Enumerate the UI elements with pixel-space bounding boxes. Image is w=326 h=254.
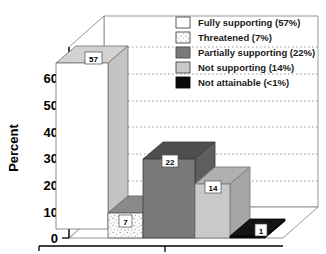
bar-value-label: 57 (89, 55, 98, 64)
legend-label-threatened: Threatened (7%) (198, 32, 272, 43)
chart-canvas: 60 50 40 30 20 10 0 Percent 57 (0, 0, 326, 254)
legend-swatch-not-attainable (176, 77, 190, 88)
bar-value-label: 1 (259, 227, 264, 236)
bar-front-face (56, 63, 108, 229)
legend-swatch-threatened (176, 32, 190, 43)
bar-fully-supporting[interactable]: 57 (56, 46, 128, 229)
legend-swatch-partially-supporting (176, 47, 190, 58)
y-tick-label-0: 0 (51, 231, 58, 246)
legend-label-fully-supporting: Fully supporting (57%) (198, 17, 300, 28)
legend-swatch-not-supporting (176, 62, 190, 73)
legend-label-not-supporting: Not supporting (14%) (198, 62, 294, 73)
legend-swatch-fully-supporting (176, 17, 190, 28)
bar-chart-3d: 60 50 40 30 20 10 0 Percent 57 (0, 0, 326, 254)
legend-label-partially-supporting: Partially supporting (22%) (198, 47, 315, 58)
y-axis-title: Percent (6, 123, 21, 171)
bar-front-face (143, 159, 195, 238)
bar-value-label: 7 (123, 218, 128, 227)
legend-label-not-attainable: Not attainable (<1%) (198, 77, 289, 88)
bar-value-label: 22 (166, 158, 175, 167)
x-axis (39, 246, 283, 252)
bar-value-label: 14 (209, 184, 218, 193)
legend-item-threatened[interactable]: Threatened (7%) (176, 32, 272, 43)
